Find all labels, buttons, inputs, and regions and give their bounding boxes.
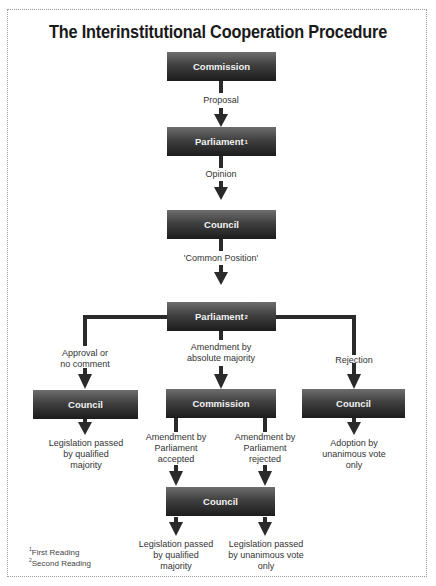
- edge-label-amendment-absolute: Amendment by absolute majority: [161, 342, 281, 364]
- node-label: Council: [336, 398, 371, 409]
- node-council: Council: [167, 210, 276, 239]
- arrow-down-icon: [214, 114, 228, 127]
- node-council-right: Council: [302, 389, 405, 418]
- node-label: Parliament: [195, 311, 244, 322]
- node-council-left: Council: [33, 390, 138, 419]
- line-right-branch: [276, 315, 356, 319]
- node-label: Council: [203, 496, 238, 507]
- node-label: Council: [68, 399, 103, 410]
- arrow-down-icon: [214, 187, 228, 200]
- edge-label-rejection: Rejection: [304, 355, 404, 366]
- footnote-text: Second Reading: [32, 559, 91, 568]
- arrow-down-icon: [347, 374, 361, 389]
- edge-label-approval: Approval or no comment: [30, 348, 140, 370]
- line-left-branch: [83, 315, 167, 319]
- node-parliament-first-reading: Parliament1: [167, 127, 276, 156]
- arrow-down-icon: [258, 522, 272, 536]
- line-commission-proposal: [219, 81, 223, 93]
- outcome-adoption-unanimous: Adoption by unanimous vote only: [300, 438, 408, 471]
- arrow-down-icon: [214, 374, 228, 389]
- arrow-down-icon: [169, 522, 183, 536]
- edge-label-proposal: Proposal: [171, 95, 271, 106]
- footnote-first-reading: 1First Reading: [29, 547, 79, 558]
- arrow-down-icon: [78, 422, 92, 435]
- edge-label-opinion: Opinion: [171, 169, 271, 180]
- edge-label-amendment-accepted: Amendment by Parliament accepted: [131, 432, 221, 465]
- node-label: Council: [204, 219, 239, 230]
- edge-label-amendment-rejected: Amendment by Parliament rejected: [220, 432, 310, 465]
- outcome-qualified-majority-left: Legislation passed by qualified majority: [30, 438, 142, 471]
- outcome-unanimous-bottom: Legislation passed by unanimous vote onl…: [214, 539, 318, 572]
- arrow-down-icon: [78, 374, 92, 389]
- arrow-down-icon: [169, 471, 183, 486]
- footnote-second-reading: 2Second Reading: [29, 558, 91, 569]
- node-label: Parliament: [195, 136, 244, 147]
- node-commission-second: Commission: [166, 389, 276, 418]
- footnote-text: First Reading: [32, 548, 80, 557]
- node-parliament-second-reading: Parliament2: [167, 302, 276, 331]
- arrow-down-icon: [347, 422, 361, 435]
- edge-label-common-position: 'Common Position': [151, 253, 291, 264]
- node-commission: Commission: [167, 52, 276, 81]
- outcome-qualified-majority-bottom: Legislation passed by qualified majority: [124, 539, 228, 572]
- arrow-down-icon: [214, 272, 228, 285]
- node-label: Commission: [192, 398, 249, 409]
- node-label: Commission: [193, 61, 250, 72]
- arrow-down-icon: [258, 471, 272, 486]
- node-council-bottom: Council: [166, 487, 275, 516]
